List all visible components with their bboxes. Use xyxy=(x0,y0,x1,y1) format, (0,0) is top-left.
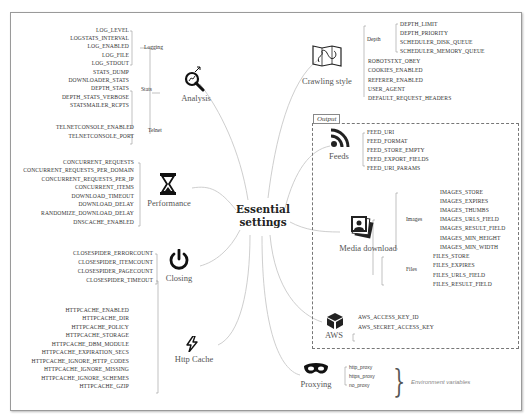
photos-icon xyxy=(350,215,376,239)
magnifier-chart-icon xyxy=(183,66,205,92)
category-closing[interactable]: Closing xyxy=(162,273,196,283)
leaf-files-urls-field[interactable]: FILES_URLS_FIELD xyxy=(433,271,485,280)
output-group-label: Output xyxy=(313,114,340,124)
leaf-httpcache-dir[interactable]: HTTPCACHE_DIR xyxy=(82,314,129,323)
leaf-images-expires[interactable]: IMAGES_EXPIRES xyxy=(440,197,488,206)
mask-icon xyxy=(303,362,329,376)
leaf-depth-priority[interactable]: DEPTH_PRIORITY xyxy=(400,29,448,38)
leaf-randomize-download-delay[interactable]: RANDOMIZE_DOWNLOAD_DELAY xyxy=(41,209,134,218)
group-depth[interactable]: Depth xyxy=(367,36,381,42)
leaf-aws-access-key-id[interactable]: AWS_ACCESS_KEY_ID xyxy=(358,313,419,322)
leaf-images-store[interactable]: IMAGES_STORE xyxy=(440,188,483,197)
category-feeds[interactable]: Feeds xyxy=(322,151,356,161)
leaf-closespider-errorcount[interactable]: CLOSESPIDER_ERRORCOUNT xyxy=(73,249,153,258)
group-stats[interactable]: Stats xyxy=(141,86,152,92)
leaf-http-proxy[interactable]: http_proxy xyxy=(349,364,372,370)
leaf-telnetconsole-port[interactable]: TELNETCONSOLE_PORT xyxy=(69,132,134,141)
brace-symbol: } xyxy=(393,365,405,397)
leaf-log-enabled[interactable]: LOG_ENABLED xyxy=(88,42,130,51)
leaf-referer-enabled[interactable]: REFERER_ENABLED xyxy=(368,76,423,85)
leaf-scheduler-memory-queue[interactable]: SCHEDULER_MEMORY_QUEUE xyxy=(400,47,485,56)
leaf-download-delay[interactable]: DOWNLOAD_DELAY xyxy=(78,200,134,209)
category-aws[interactable]: AWS xyxy=(320,330,348,340)
leaf-feed-uri-params[interactable]: FEED_URI_PARAMS xyxy=(367,164,420,173)
leaf-default-request-headers[interactable]: DEFAULT_REQUEST_HEADERS xyxy=(368,94,451,103)
leaf-images-min-height[interactable]: IMAGES_MIN_HEIGHT xyxy=(440,234,500,243)
leaf-httpcache-ignore-missing[interactable]: HTTPCACHE_IGNORE_MISSING xyxy=(44,365,129,374)
leaf-robotstxt-obey[interactable]: ROBOTSTXT_OBEY xyxy=(368,57,420,66)
map-icon xyxy=(312,44,342,68)
power-icon xyxy=(168,249,190,271)
group-files[interactable]: Files xyxy=(406,266,417,272)
leaf-scheduler-disk-queue[interactable]: SCHEDULER_DISK_QUEUE xyxy=(400,38,473,47)
leaf-httpcache-expiration-secs[interactable]: HTTPCACHE_EXPIRATION_SECS xyxy=(42,348,129,357)
leaf-feed-export-fields[interactable]: FEED_EXPORT_FIELDS xyxy=(367,155,429,164)
category-media-download[interactable]: Media download xyxy=(338,243,398,253)
category-proxying[interactable]: Proxying xyxy=(298,379,334,389)
category-performance[interactable]: Performance xyxy=(146,198,192,208)
leaf-statsmailer-rcpts[interactable]: STATSMAILER_RCPTS xyxy=(70,101,129,110)
leaf-images-result-field[interactable]: IMAGES_RESULT_FIELD xyxy=(440,224,505,233)
hourglass-icon xyxy=(160,173,176,195)
leaf-concurrent-items[interactable]: CONCURRENT_ITEMS xyxy=(75,183,134,192)
leaf-user-agent[interactable]: USER_AGENT xyxy=(368,85,405,94)
group-logging[interactable]: Logging xyxy=(144,44,163,50)
central-topic-line2: settings xyxy=(228,216,298,229)
leaf-images-urls-field[interactable]: IMAGES_URLS_FIELD xyxy=(440,215,499,224)
leaf-log-stdout[interactable]: LOG_STDOUT xyxy=(92,59,129,68)
leaf-feed-format[interactable]: FEED_FORMAT xyxy=(367,137,408,146)
environment-variables-note: Environment variables xyxy=(411,379,470,385)
group-telnet[interactable]: Telnet xyxy=(148,127,162,133)
category-analysis[interactable]: Analysis xyxy=(176,93,216,103)
category-http-cache[interactable]: Http Cache xyxy=(172,354,216,364)
central-topic[interactable]: Essential settings xyxy=(228,203,298,229)
leaf-aws-secret-access-key[interactable]: AWS_SECRET_ACCESS_KEY xyxy=(358,323,434,332)
leaf-https-proxy[interactable]: https_proxy xyxy=(349,373,375,379)
leaf-closespider-timeout[interactable]: CLOSESPIDER_TIMEOUT xyxy=(86,276,153,285)
lightning-icon xyxy=(186,336,198,352)
leaf-feed-store-empty[interactable]: FEED_STORE_EMPTY xyxy=(367,146,425,155)
rss-icon xyxy=(330,128,350,148)
group-images[interactable]: Images xyxy=(406,216,422,222)
leaf-httpcache-gzip[interactable]: HTTPCACHE_GZIP xyxy=(79,382,129,391)
leaf-dnscache-enabled[interactable]: DNSCACHE_ENABLED xyxy=(73,218,134,227)
leaf-files-expires[interactable]: FILES_EXPIRES xyxy=(433,261,475,270)
leaf-feed-uri[interactable]: FEED_URI xyxy=(367,128,394,137)
leaf-httpcache-storage[interactable]: HTTPCACHE_STORAGE xyxy=(66,331,129,340)
category-crawling-style[interactable]: Crawling style xyxy=(302,76,352,86)
leaf-no-proxy[interactable]: no_proxy xyxy=(349,382,370,388)
leaf-closespider-itemcount[interactable]: CLOSESPIDER_ITEMCOUNT xyxy=(78,258,153,267)
leaf-files-result-field[interactable]: FILES_RESULT_FIELD xyxy=(433,280,492,289)
leaf-cookies-enabled[interactable]: COOKIES_ENABLED xyxy=(368,66,423,75)
leaf-closespider-pagecount[interactable]: CLOSESPIDER_PAGECOUNT xyxy=(78,267,153,276)
leaf-images-min-width[interactable]: IMAGES_MIN_WIDTH xyxy=(440,243,498,252)
leaf-concurrent-requests-per-domain[interactable]: CONCURRENT_REQUESTS_PER_DOMAIN xyxy=(23,166,134,175)
leaf-depth-limit[interactable]: DEPTH_LIMIT xyxy=(400,20,437,29)
central-topic-line1: Essential xyxy=(228,203,298,216)
leaf-depth-stats[interactable]: DEPTH_STATS xyxy=(91,84,129,93)
leaf-files-store[interactable]: FILES_STORE xyxy=(433,252,469,261)
cube-icon xyxy=(326,312,344,330)
leaf-telnetconsole-enabled[interactable]: TELNETCONSOLE_ENABLED xyxy=(56,123,134,132)
leaf-images-thumbs[interactable]: IMAGES_THUMBS xyxy=(440,206,489,215)
